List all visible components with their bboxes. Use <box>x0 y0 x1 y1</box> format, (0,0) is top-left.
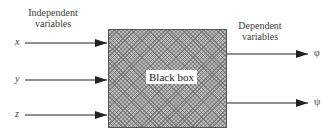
output-phi-label: φ <box>314 47 320 58</box>
independent-variables-label: Independent variables <box>20 7 86 29</box>
input-z-label: z <box>15 108 19 119</box>
black-box-label: Black box <box>146 70 197 84</box>
dependent-label-line1: Dependent <box>228 20 292 31</box>
output-psi-label: ψ <box>314 96 320 107</box>
input-x-label: x <box>15 36 19 47</box>
independent-label-line2: variables <box>20 18 86 29</box>
input-y-label: y <box>15 73 19 84</box>
dependent-variables-label: Dependent variables <box>228 20 292 42</box>
dependent-label-line2: variables <box>228 31 292 42</box>
independent-label-line1: Independent <box>20 7 86 18</box>
